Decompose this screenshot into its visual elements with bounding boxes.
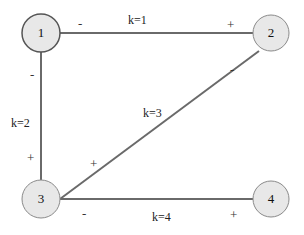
sign-3-4-from: - bbox=[82, 206, 86, 221]
edge-label-1-3: k=2 bbox=[11, 116, 30, 130]
sign-1-3-from: - bbox=[30, 67, 34, 82]
edge-label-1-2: k=1 bbox=[128, 13, 147, 27]
sign-3-2-to: - bbox=[230, 62, 234, 77]
sign-3-2-from: + bbox=[90, 156, 97, 171]
node-label-4: 4 bbox=[268, 191, 275, 206]
node-1: 1 bbox=[22, 14, 60, 52]
node-label-1: 1 bbox=[38, 25, 45, 40]
node-label-3: 3 bbox=[38, 191, 45, 206]
node-3: 3 bbox=[22, 180, 60, 218]
sign-1-2-to: + bbox=[227, 17, 234, 32]
sign-1-2-from: - bbox=[78, 16, 82, 31]
sign-1-3-to: + bbox=[27, 150, 34, 165]
node-label-2: 2 bbox=[268, 25, 275, 40]
node-4: 4 bbox=[253, 181, 289, 217]
node-2: 2 bbox=[253, 15, 289, 51]
edge-label-3-2: k=3 bbox=[143, 106, 162, 120]
sign-3-4-to: + bbox=[230, 207, 237, 222]
edge-label-3-4: k=4 bbox=[152, 210, 171, 224]
graph-diagram: k=1 k=2 k=3 k=4 - + - + + - - + 1 2 3 4 bbox=[0, 0, 304, 235]
